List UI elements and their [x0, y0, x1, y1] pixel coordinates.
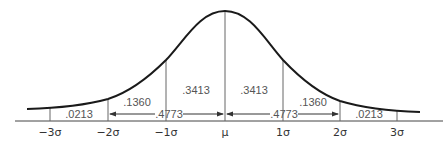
tick-label-plus-1-sigma: 1σ — [276, 126, 290, 139]
bell-curve — [27, 11, 420, 112]
tick-label-plus-3-sigma: 3σ — [390, 126, 404, 139]
tick-label-plus-2-sigma: 2σ — [333, 126, 347, 139]
normal-distribution-diagram: .0213 .1360 .3413 .3413 .1360 .0213 .477… — [0, 0, 447, 148]
area-label-left-center: .3413 — [182, 84, 210, 96]
tick-label-mean: μ — [222, 126, 229, 139]
tick-label-minus-3-sigma: −3σ — [38, 126, 61, 139]
tick-label-minus-2-sigma: −2σ — [96, 126, 119, 139]
arrowhead-left-start-icon — [109, 112, 116, 117]
arrowhead-left-end-icon — [217, 112, 224, 117]
area-label-right-mid: .1360 — [299, 96, 327, 108]
area-label-right-tail: .0213 — [355, 108, 383, 120]
arrowhead-right-end-icon — [332, 112, 339, 117]
area-label-left-tail: .0213 — [65, 108, 93, 120]
area-label-left-mid: .1360 — [123, 96, 151, 108]
tick-label-minus-1-sigma: −1σ — [154, 126, 177, 139]
span-label-left: .4773 — [155, 108, 183, 120]
span-label-right: .4773 — [270, 108, 298, 120]
arrowhead-right-start-icon — [226, 112, 233, 117]
area-label-right-center: .3413 — [240, 84, 268, 96]
